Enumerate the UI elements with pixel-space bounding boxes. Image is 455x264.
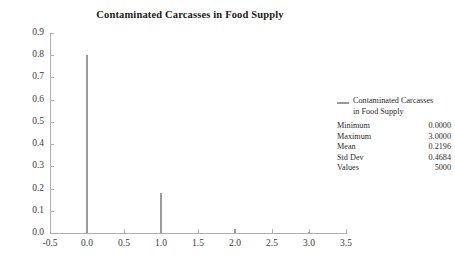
legend-stat-row: Std Dev0.4684 [337, 153, 453, 164]
y-axis-tick-label: 0.1 [4, 205, 44, 215]
legend-stat-name: Maximum [337, 132, 371, 141]
y-axis-tick [50, 122, 54, 123]
legend-stat-value: 0.2196 [428, 142, 451, 151]
y-axis-tick [50, 77, 54, 78]
legend-stat-row: Mean0.2196 [337, 142, 453, 153]
legend-stat-name: Minimum [337, 121, 370, 130]
data-spike [234, 229, 236, 233]
legend: Contaminated Carcasses in Food Supply Mi… [337, 96, 453, 174]
x-axis-tick-label: 1.5 [178, 238, 218, 248]
x-axis-tick [124, 229, 125, 234]
data-spike [160, 193, 162, 233]
y-axis-tick-label: 0.5 [4, 116, 44, 126]
x-axis-tick-label: 2.0 [215, 238, 255, 248]
legend-statistics: Minimum0.0000Maximum3.0000Mean0.2196Std … [337, 121, 453, 174]
y-axis-tick-label: 0.2 [4, 183, 44, 193]
x-axis-tick-label: 3.5 [326, 238, 366, 248]
y-axis-tick [50, 211, 54, 212]
y-axis-tick [50, 144, 54, 145]
y-axis-tick-label: 0.8 [4, 49, 44, 59]
x-axis-tick-label: 2.5 [252, 238, 292, 248]
legend-series-label-line1: Contaminated Carcasses [353, 96, 433, 105]
data-spike [308, 232, 310, 233]
legend-series-label-line2: in Food Supply [353, 107, 404, 116]
x-axis-tick-label: -0.5 [30, 238, 70, 248]
x-axis-tick [346, 229, 347, 234]
y-axis-tick [50, 55, 54, 56]
legend-entry: Contaminated Carcasses in Food Supply [337, 96, 453, 118]
x-axis-tick-label: 0.5 [104, 238, 144, 248]
legend-stat-value: 0.4684 [428, 153, 451, 162]
x-axis-tick [198, 229, 199, 234]
legend-stat-row: Maximum3.0000 [337, 132, 453, 143]
y-axis-tick [50, 33, 54, 34]
chart-figure: Contaminated Carcasses in Food Supply 0.… [0, 0, 455, 264]
x-axis-tick [50, 229, 51, 234]
legend-stat-row: Minimum0.0000 [337, 121, 453, 132]
legend-stat-value: 5000 [435, 163, 451, 172]
chart-title: Contaminated Carcasses in Food Supply [0, 9, 380, 20]
legend-stat-value: 3.0000 [428, 132, 451, 141]
data-spike [86, 55, 88, 233]
x-axis-tick-label: 3.0 [289, 238, 329, 248]
y-axis-tick-label: 0.3 [4, 160, 44, 170]
legend-stat-name: Values [337, 163, 359, 172]
y-axis-tick [50, 100, 54, 101]
x-axis-tick-label: 1.0 [141, 238, 181, 248]
plot-area [50, 33, 345, 233]
y-axis-tick-label: 0.0 [4, 227, 44, 237]
x-axis-tick-label: 0.0 [67, 238, 107, 248]
y-axis-tick-label: 0.7 [4, 71, 44, 81]
legend-stat-value: 0.0000 [428, 121, 451, 130]
y-axis-tick [50, 166, 54, 167]
legend-stat-name: Mean [337, 142, 356, 151]
legend-series-label: Contaminated Carcasses in Food Supply [353, 96, 453, 117]
legend-stat-row: Values5000 [337, 163, 453, 174]
y-axis-tick-label: 0.4 [4, 138, 44, 148]
x-axis-tick [272, 229, 273, 234]
legend-line-swatch-icon [337, 102, 349, 104]
y-axis-tick-label: 0.6 [4, 94, 44, 104]
y-axis-tick [50, 189, 54, 190]
y-axis-tick-label: 0.9 [4, 27, 44, 37]
legend-stat-name: Std Dev [337, 153, 364, 162]
